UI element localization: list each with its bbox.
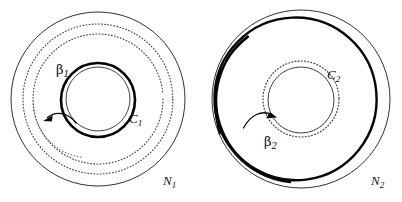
- beta-2-spiral-bold: [214, 18, 376, 182]
- c-1-inner-thin-circle: [66, 67, 130, 131]
- panel-right-n2: C2 β2 N2: [212, 10, 390, 190]
- arrow-beta-1-head: [43, 115, 53, 121]
- label-n-1: N1: [162, 173, 176, 190]
- figure-canvas: β1 C1 N1 C2 β2 N2: [0, 0, 402, 202]
- panel-left-n1: β1 C1 N1: [11, 12, 185, 190]
- right-outer-boundary-circle: [212, 10, 390, 188]
- c-2-inner-thin-circle: [268, 67, 334, 133]
- c-1-bold-circle: [61, 63, 135, 137]
- label-beta-2: β2: [264, 134, 278, 151]
- label-c-2: C2: [327, 67, 341, 84]
- label-beta-1: β1: [56, 62, 69, 79]
- label-c-1: C1: [129, 111, 142, 128]
- left-outer-boundary-circle: [11, 12, 185, 186]
- figure-root: β1 C1 N1 C2 β2 N2: [0, 0, 402, 202]
- beta-1-spiral-dotted: [23, 24, 173, 174]
- arrow-beta-2-shaft: [244, 113, 272, 128]
- label-n-2: N2: [370, 173, 385, 190]
